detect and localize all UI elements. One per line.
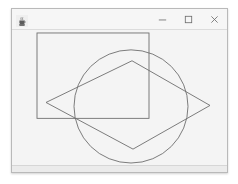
minimize-button[interactable] (149, 9, 175, 29)
maximize-button[interactable] (175, 9, 201, 29)
drawing-canvas[interactable] (12, 30, 227, 165)
window-controls (149, 9, 227, 29)
close-button[interactable] (201, 9, 227, 29)
screenshot-root (0, 0, 238, 184)
window-bottom-strip (12, 165, 227, 172)
java-coffee-cup-icon (16, 13, 28, 25)
circle-shape (74, 50, 188, 163)
window-titlebar[interactable] (12, 9, 227, 30)
rectangle-shape (37, 33, 149, 118)
quadrilateral-shape (46, 61, 210, 149)
application-window (11, 8, 228, 173)
